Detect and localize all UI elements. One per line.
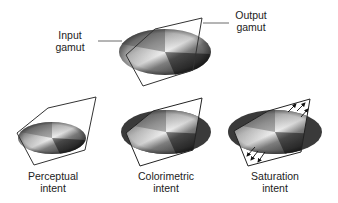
output-gamut-label: Output gamut xyxy=(229,9,273,33)
saturation-label-line1: Saturation xyxy=(238,170,312,182)
saturation-label-line2: intent xyxy=(238,182,312,194)
colorimetric-panel xyxy=(121,98,211,166)
output-gamut-label-line1: Output xyxy=(229,9,273,21)
gamut-mapping-diagram: Input gamut Output gamut Perceptual inte… xyxy=(0,0,338,203)
saturation-intent-label: Saturation intent xyxy=(238,170,312,194)
perceptual-intent-label: Perceptual intent xyxy=(17,170,89,194)
colorimetric-label-line1: Colorimetric xyxy=(126,170,206,182)
perceptual-label-line2: intent xyxy=(17,182,89,194)
perceptual-panel xyxy=(17,97,96,165)
input-gamut-label-line1: Input xyxy=(48,29,92,41)
input-gamut-label-line2: gamut xyxy=(48,41,92,53)
saturation-panel xyxy=(228,99,322,166)
output-gamut-label-line2: gamut xyxy=(229,21,273,33)
top-gamut-comparison xyxy=(98,18,229,86)
colorimetric-label-line2: intent xyxy=(126,182,206,194)
perceptual-label-line1: Perceptual xyxy=(17,170,89,182)
input-gamut-label: Input gamut xyxy=(48,29,92,53)
colorimetric-intent-label: Colorimetric intent xyxy=(126,170,206,194)
perceptual-compressed-ellipse xyxy=(18,122,86,154)
